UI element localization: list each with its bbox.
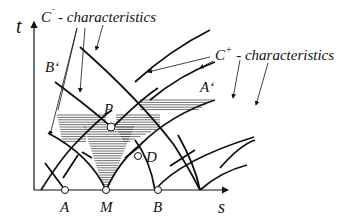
label-A-prime: A‘: [199, 79, 214, 95]
c-minus-label: Cˉ - characteristics: [41, 7, 156, 25]
point-B: [155, 187, 162, 194]
c-plus-line-3: [63, 155, 78, 178]
t-axis-label: t: [16, 15, 22, 37]
c-plus-line-5: [135, 30, 210, 82]
label-P: P: [103, 101, 113, 117]
label-M: M: [99, 199, 114, 215]
s-axis-label: s: [218, 197, 225, 217]
label-D: D: [145, 149, 157, 165]
label-B: B: [153, 199, 162, 215]
c-plus-line-2: [106, 100, 215, 190]
c-plus-label: C+ - characteristics: [215, 43, 334, 63]
point-M: [103, 187, 110, 194]
c-plus-line-7: [155, 137, 254, 190]
label-A: A: [59, 199, 70, 215]
leader-arrows: [50, 25, 268, 135]
label-B-prime: B‘: [45, 59, 59, 75]
point-P: [107, 123, 115, 131]
point-A: [62, 187, 69, 194]
c-plus-line-8: [200, 165, 247, 190]
point-D: [135, 153, 142, 160]
characteristics-diagram: t s Cˉ - characteristics C+ - characteri…: [0, 0, 353, 223]
c-minus-line-5: [45, 163, 65, 190]
c-plus-line-10: [220, 140, 255, 168]
